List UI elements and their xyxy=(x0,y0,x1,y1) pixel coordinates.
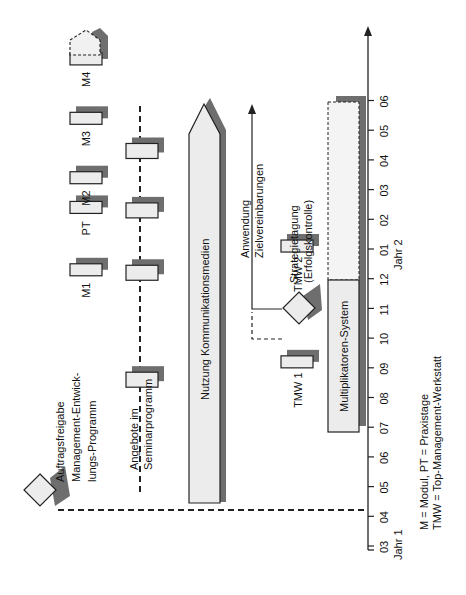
auftragsfreigabe-milestone: Auftragsfreigabe Management-Entwick- lun… xyxy=(24,372,98,506)
legend-line-1: M = Modul, PT = Praxistage xyxy=(418,394,430,530)
auftragsfreigabe-line-3: lungs-Programm xyxy=(86,401,98,482)
strategietagung-label-2: (Erfolgskontrolle) xyxy=(302,200,314,283)
axis-tick-label: 04 xyxy=(378,155,390,167)
year-label-1: Jahr 1 xyxy=(392,529,404,560)
legend-line-2: TMW = Top-Management-Werkstatt xyxy=(431,356,443,530)
axis-tick-label: 01 xyxy=(378,244,390,256)
year-label-2: Jahr 2 xyxy=(392,239,404,270)
seminar-session-box xyxy=(126,203,158,218)
seminar-session-box xyxy=(126,265,158,280)
axis-tick-label: 02 xyxy=(378,214,390,226)
axis-tick-label: 07 xyxy=(378,422,390,434)
strategietagung-label-1: Strategietagung xyxy=(288,205,300,283)
module-box xyxy=(70,112,102,124)
axis-tick-label: 05 xyxy=(378,481,390,493)
module-label: M4 xyxy=(80,72,92,87)
axis-tick-label: 06 xyxy=(378,95,390,107)
axis-tick-label: 05 xyxy=(378,125,390,137)
axis-arrow-head xyxy=(364,26,372,36)
multiplikatoren-label: Multiplikatoren-System xyxy=(338,301,350,412)
anwendung-arrow-head xyxy=(248,104,256,114)
module-box xyxy=(70,264,102,276)
tmw-box xyxy=(281,356,313,368)
time-axis: 03040506070809101112010203040506 Jahr 1 … xyxy=(364,26,404,560)
nutzung-arrow: Nutzung Kommunikationsmedien xyxy=(189,98,226,503)
multiplikatoren-system: Multiplikatoren-System xyxy=(328,96,366,432)
module-label: M1 xyxy=(80,283,92,298)
tmw-label: TMW 1 xyxy=(292,372,304,407)
axis-tick-label: 12 xyxy=(378,273,390,285)
axis-tick-label: 03 xyxy=(378,184,390,196)
module-label: PT xyxy=(80,221,92,235)
axis-tick-label: 06 xyxy=(378,452,390,464)
seminar-row xyxy=(126,137,164,387)
strategietagung-milestone: Strategietagung (Erfolgskontrolle) xyxy=(283,200,322,324)
anwendung-label-2: Zielvereinbarungen xyxy=(253,164,265,258)
legend: M = Modul, PT = Praxistage TMW = Top-Man… xyxy=(418,356,443,530)
multiplikatoren-dashed-part xyxy=(328,102,359,280)
seminar-label-1: Angebote im xyxy=(128,408,140,470)
axis-tick-label: 04 xyxy=(378,511,390,523)
seminar-label-2: Seminarprogramm xyxy=(142,379,154,470)
timeline-diagram: 03040506070809101112010203040506 Jahr 1 … xyxy=(0,0,466,595)
axis-tick-label: 03 xyxy=(378,541,390,553)
axis-tick-label: 11 xyxy=(378,304,390,315)
module-box xyxy=(70,172,102,184)
modules-row: M1PTM2M3M4 xyxy=(70,47,108,298)
module-label: M3 xyxy=(80,131,92,146)
axis-tick-label: 09 xyxy=(378,363,390,375)
auftragsfreigabe-line-1: Auftragsfreigabe xyxy=(54,401,66,482)
axis-tick-label: 08 xyxy=(378,392,390,404)
module-label: M2 xyxy=(80,190,92,205)
axis-ticks: 03040506070809101112010203040506 xyxy=(368,95,390,553)
nutzung-label: Nutzung Kommunikationsmedien xyxy=(199,239,211,400)
auftragsfreigabe-line-2: Management-Entwick- xyxy=(70,372,82,482)
anwendung-connector: Anwendung Zielvereinbarungen xyxy=(239,104,282,339)
axis-tick-label: 10 xyxy=(378,333,390,345)
seminar-session-box xyxy=(126,143,158,158)
anwendung-label-1: Anwendung xyxy=(239,200,251,258)
tmw2-dashed-connector xyxy=(252,312,282,339)
